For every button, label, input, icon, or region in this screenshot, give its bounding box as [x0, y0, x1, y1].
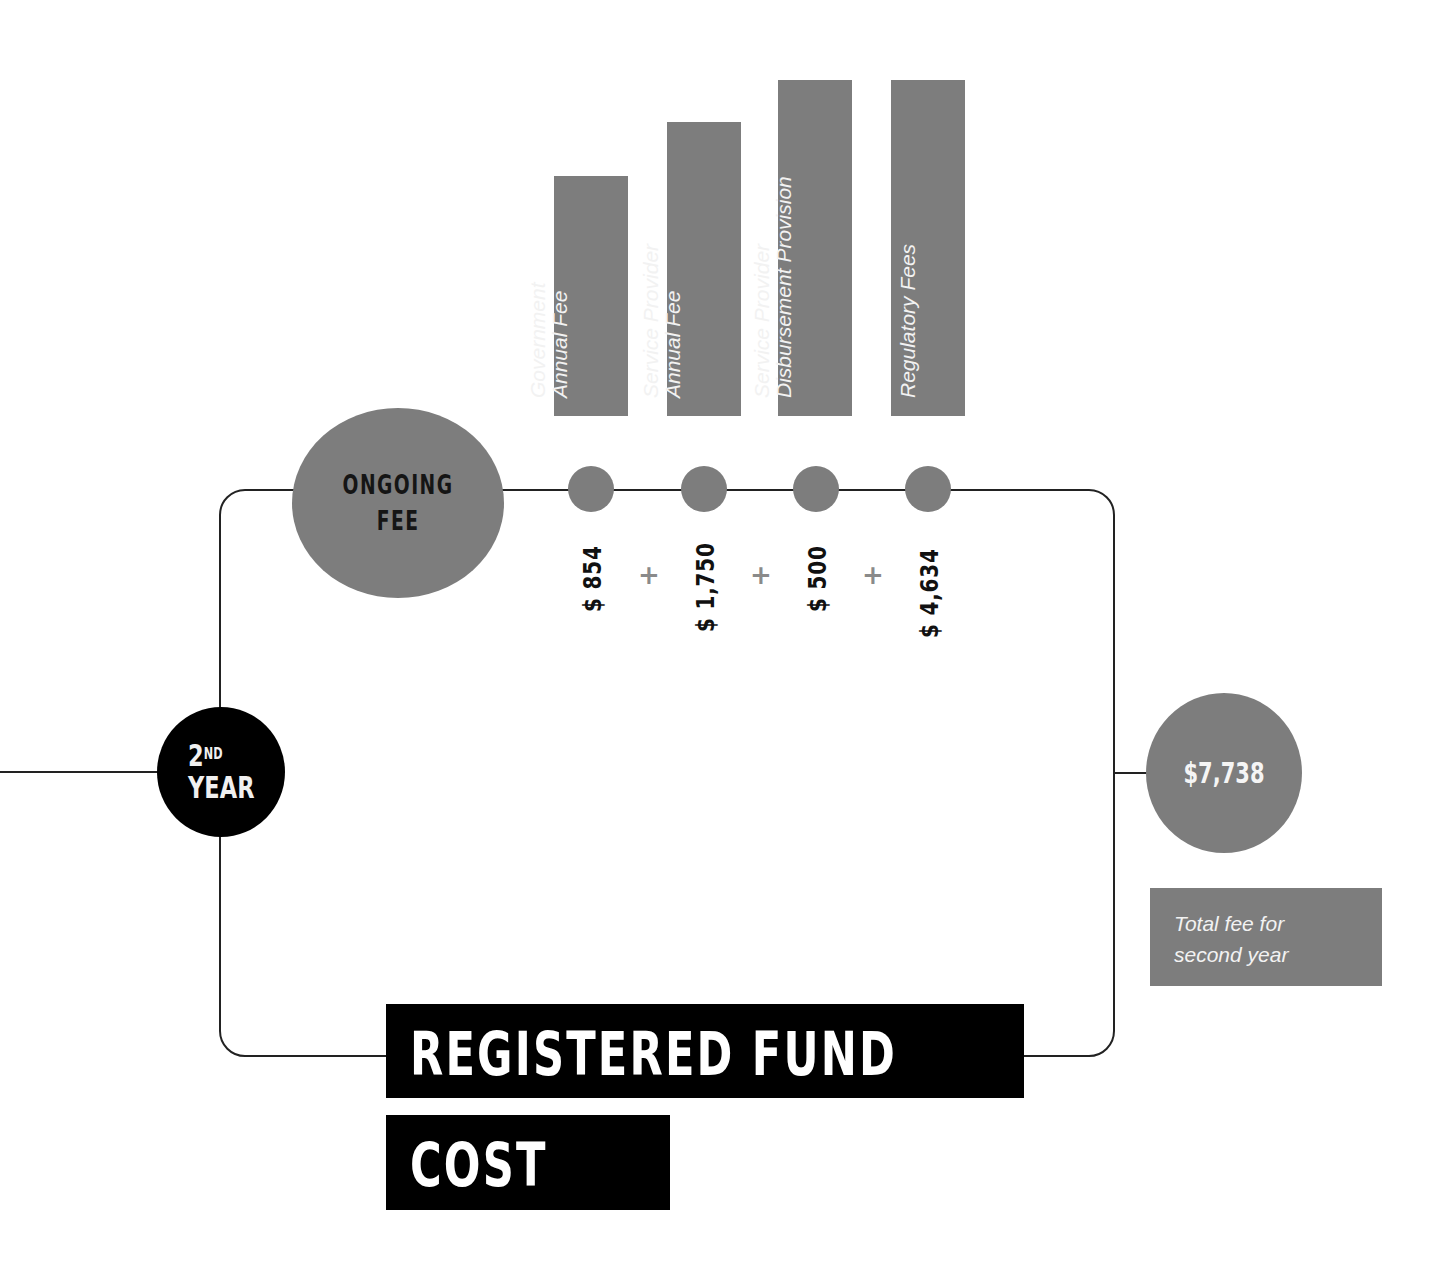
fee-bar-label: Service Provider Annual Fee — [640, 244, 684, 398]
year-label: YEAR — [188, 772, 254, 804]
total-caption: Total fee for second year — [1150, 888, 1382, 986]
year-node: 2ND YEAR — [157, 707, 285, 837]
fee-dot — [568, 466, 614, 512]
fee-bar-disbursement: Service Provider Disbursement Provision — [778, 80, 852, 416]
fee-amount: $ 4,634 — [915, 548, 944, 638]
total-fee-node: $7,738 — [1146, 693, 1302, 853]
fee-bar-label: Service Provider Disbursement Provision — [751, 176, 795, 398]
plus-operator: + — [862, 560, 884, 590]
plus-operator: + — [638, 560, 660, 590]
fee-bar-government: Government Annual Fee — [554, 176, 628, 416]
total-connector — [1115, 772, 1149, 774]
title-line-2: COST — [386, 1115, 670, 1210]
plus-operator: + — [750, 560, 772, 590]
fee-dot — [793, 466, 839, 512]
fee-label: FEE — [343, 503, 454, 539]
year-suffix: ND — [203, 745, 222, 763]
fee-amount: $ 500 — [803, 545, 832, 612]
year-number: 2 — [188, 738, 204, 773]
fee-bar-service-provider: Service Provider Annual Fee — [667, 122, 741, 416]
fee-bar-label: Government Annual Fee — [527, 282, 571, 398]
total-amount: $7,738 — [1183, 757, 1264, 790]
fee-dot — [681, 466, 727, 512]
fee-bar-regulatory: Regulatory Fees — [891, 80, 965, 416]
entry-connector — [0, 771, 160, 773]
ongoing-label: ONGOING — [343, 467, 454, 503]
ongoing-fee-node: ONGOING FEE — [292, 408, 504, 598]
fee-dot — [905, 466, 951, 512]
title-line-1: REGISTERED FUND — [386, 1004, 1024, 1098]
fee-amount: $ 854 — [578, 545, 607, 612]
fee-bar-label: Regulatory Fees — [897, 244, 919, 398]
fee-amount: $ 1,750 — [691, 542, 720, 632]
